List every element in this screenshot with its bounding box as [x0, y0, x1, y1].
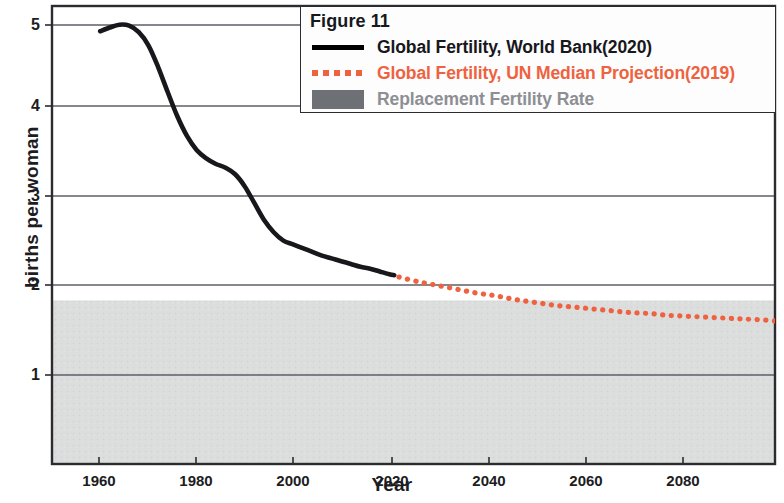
legend-label-un-projection: Global Fertility, UN Median Projection(2…: [377, 63, 735, 84]
chart-legend: Figure 11 Global Fertility, World Bank(2…: [300, 6, 776, 113]
chart-figure: births per woman Year 1960 1980 2000 202…: [0, 0, 784, 503]
x-tick-2000: 2000: [263, 472, 323, 489]
replacement-rate-band: [52, 300, 775, 464]
y-tick-2: 2: [14, 276, 40, 294]
y-tick-5: 5: [14, 16, 40, 34]
y-tick-3: 3: [14, 187, 40, 205]
x-tick-2040: 2040: [459, 472, 519, 489]
legend-item-world-bank: Global Fertility, World Bank(2020): [310, 34, 775, 60]
filled-band-swatch-icon: [310, 88, 368, 110]
y-tick-4: 4: [14, 97, 40, 115]
legend-label-world-bank: Global Fertility, World Bank(2020): [377, 37, 652, 58]
solid-line-swatch-icon: [310, 36, 368, 58]
y-axis-label: births per woman: [21, 128, 43, 288]
legend-item-un-projection: Global Fertility, UN Median Projection(2…: [310, 60, 775, 86]
x-tick-2060: 2060: [556, 472, 616, 489]
x-tick-2020: 2020: [362, 472, 422, 489]
legend-title: Figure 11: [310, 9, 775, 34]
x-tick-1960: 1960: [69, 472, 129, 489]
dotted-line-swatch-icon: [310, 62, 368, 84]
legend-item-replacement-rate: Replacement Fertility Rate: [310, 86, 775, 112]
x-tick-1980: 1980: [166, 472, 226, 489]
x-tick-2080: 2080: [653, 472, 713, 489]
y-tick-1: 1: [14, 366, 40, 384]
legend-label-replacement-rate: Replacement Fertility Rate: [377, 89, 594, 110]
